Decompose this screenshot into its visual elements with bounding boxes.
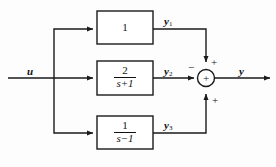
block-3-output-line	[153, 94, 206, 133]
sign-top-plus: +	[211, 57, 217, 68]
signal-label-y2-sub: 2	[169, 70, 173, 78]
block-3-denominator: s−1	[114, 132, 135, 145]
signal-label-y3: y3	[164, 120, 172, 132]
summing-junction-symbol: +	[203, 72, 209, 84]
block-1-transfer-function: 1	[97, 21, 153, 33]
block-1-output-line	[153, 29, 206, 62]
block-1-value: 1	[122, 21, 128, 33]
input-label: u	[27, 66, 33, 77]
branch-line-top	[54, 29, 93, 78]
block-3-transfer-function: 1 s−1	[97, 120, 153, 144]
block-diagram-canvas: + 1 2 s+1 1 s−1 u y y1 y2 y3 + − +	[0, 0, 276, 167]
block-3-numerator: 1	[114, 120, 135, 132]
signal-label-y2: y2	[164, 66, 172, 78]
output-label: y	[239, 66, 244, 77]
signal-label-y1: y1	[164, 16, 172, 28]
signal-label-y1-sub: 1	[169, 20, 173, 28]
sign-bottom-plus: +	[212, 95, 218, 106]
block-2-transfer-function: 2 s+1	[97, 65, 153, 89]
block-2-denominator: s+1	[114, 77, 135, 90]
signal-label-y3-sub: 3	[169, 124, 173, 132]
block-2-numerator: 2	[114, 65, 135, 77]
sign-middle-minus: −	[188, 62, 194, 73]
branch-line-bottom	[54, 78, 93, 133]
